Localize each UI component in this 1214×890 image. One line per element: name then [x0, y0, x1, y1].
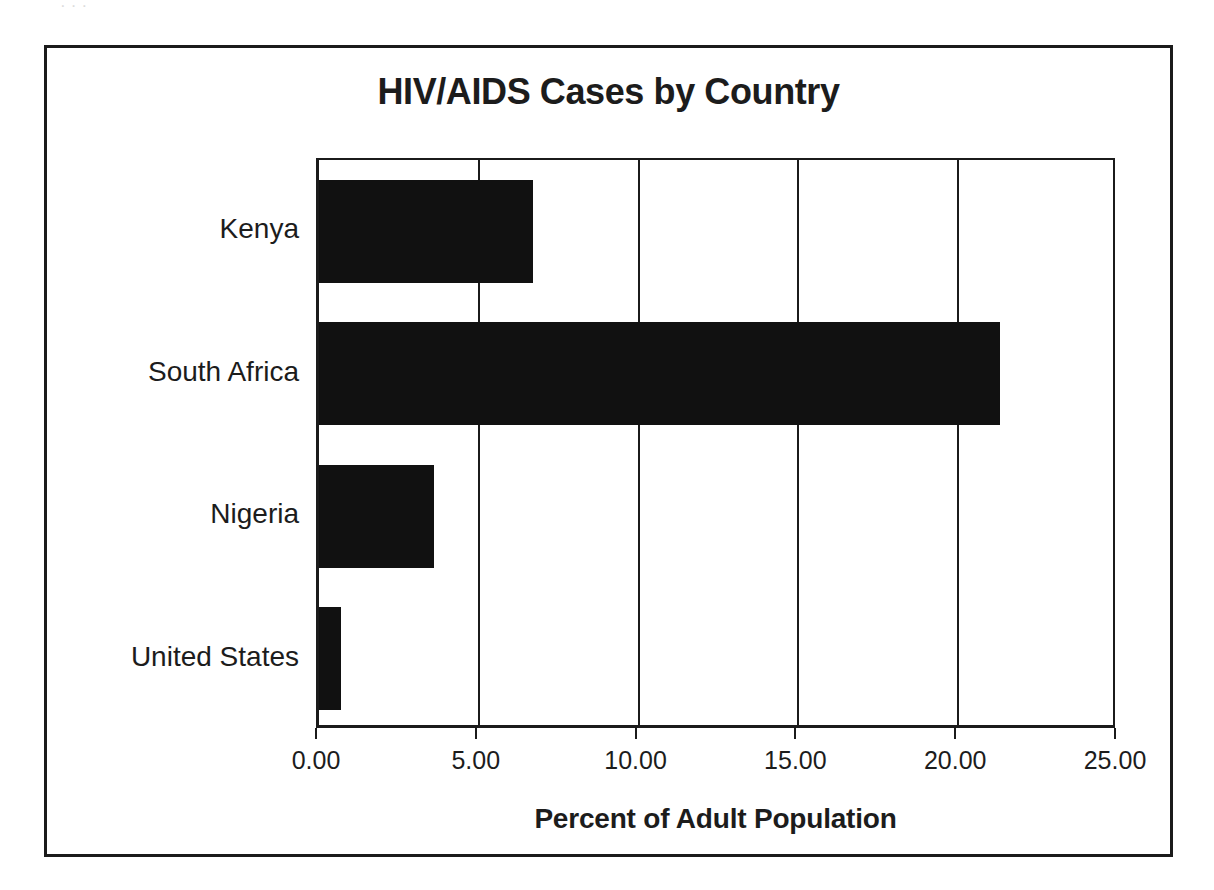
category-label-kenya: Kenya — [220, 215, 299, 243]
category-label-south-africa: South Africa — [148, 358, 299, 386]
tick-mark-25.00 — [1114, 728, 1116, 739]
tick-label-25.00: 25.00 — [1084, 748, 1147, 773]
tick-mark-0.00 — [315, 728, 317, 739]
tick-mark-20.00 — [954, 728, 956, 739]
tick-label-15.00: 15.00 — [764, 748, 827, 773]
bar-band — [319, 607, 1113, 710]
plot-area — [316, 158, 1115, 728]
tick-label-5.00: 5.00 — [451, 748, 500, 773]
chart-title: HIV/AIDS Cases by Country — [47, 71, 1170, 113]
bar-south-africa[interactable] — [319, 322, 1000, 425]
bar-kenya[interactable] — [319, 180, 533, 283]
category-label-nigeria: Nigeria — [210, 500, 299, 528]
bar-nigeria[interactable] — [319, 465, 434, 568]
x-axis-ticks — [316, 728, 1115, 740]
tick-label-10.00: 10.00 — [604, 748, 667, 773]
tick-mark-5.00 — [475, 728, 477, 739]
tick-mark-15.00 — [794, 728, 796, 739]
tick-label-0.00: 0.00 — [292, 748, 341, 773]
scan-artifact: · · · — [60, 0, 580, 12]
category-label-united-states: United States — [131, 643, 299, 671]
y-axis-category-labels: KenyaSouth AfricaNigeriaUnited States — [47, 158, 299, 728]
bar-band — [319, 180, 1113, 283]
x-axis-tick-labels: 0.005.0010.0015.0020.0025.00 — [316, 748, 1115, 782]
tick-mark-10.00 — [635, 728, 637, 739]
chart-frame: HIV/AIDS Cases by Country KenyaSouth Afr… — [44, 45, 1173, 857]
tick-label-20.00: 20.00 — [924, 748, 987, 773]
bar-band — [319, 465, 1113, 568]
x-axis-title: Percent of Adult Population — [316, 803, 1115, 835]
bar-united-states[interactable] — [319, 607, 341, 710]
bar-band — [319, 322, 1113, 425]
